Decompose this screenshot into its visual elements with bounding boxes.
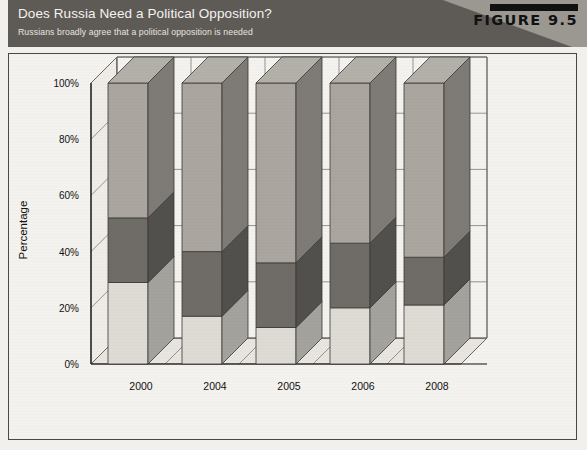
bar-segment-front: [182, 316, 222, 364]
page-subtitle: Russians broadly agree that a political …: [18, 27, 253, 37]
bar-segment-front: [404, 305, 444, 364]
bar-segment-side: [444, 57, 470, 257]
x-axis-tick-label: 2004: [203, 380, 226, 392]
bar-segment-side: [222, 57, 248, 252]
bar-segment-front: [182, 252, 222, 317]
bar-segment-front: [404, 83, 444, 257]
bar-segment-front: [108, 283, 148, 364]
x-axis-tick-label: 2005: [277, 380, 300, 392]
bar-segment-front: [256, 263, 296, 328]
bar-segment-front: [108, 83, 148, 218]
x-axis-tick-label: 2006: [351, 380, 374, 392]
x-axis-tick-label: 2000: [129, 380, 152, 392]
header-left-edge: [0, 0, 8, 47]
bar-segment-front: [330, 243, 370, 308]
bar-segment-front: [330, 308, 370, 364]
page-title: Does Russia Need a Political Opposition?: [18, 6, 272, 21]
bar-segment-side: [370, 57, 396, 243]
bar-segment-front: [404, 257, 444, 305]
figure-number-label: FIGURE 9.5: [473, 12, 578, 28]
bar-segment-front: [256, 327, 296, 364]
figure-label-bar: [490, 4, 578, 11]
bar-segment-side: [148, 57, 174, 218]
bar-segment-front: [108, 218, 148, 283]
figure-header: Does Russia Need a Political Opposition?…: [0, 0, 587, 47]
bar-segment-side: [296, 57, 322, 263]
bar-segment-front: [330, 83, 370, 243]
chart-frame: Percentage 0%20%40%60%80%100% 2000200420…: [8, 53, 577, 440]
x-axis-tick-label: 2008: [425, 380, 448, 392]
bar-segment-front: [256, 83, 296, 263]
bar-segment-front: [182, 83, 222, 252]
